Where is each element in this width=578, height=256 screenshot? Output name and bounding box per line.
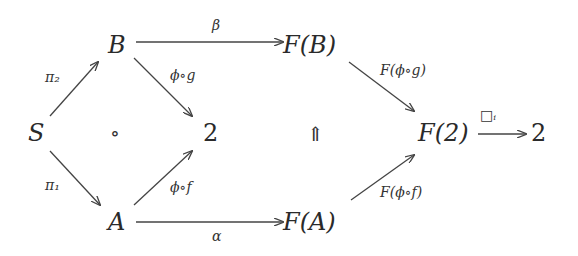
- label-box-i: □ᵢ: [480, 107, 496, 123]
- arrow-A-to-2: [134, 151, 192, 205]
- node-F-of-B: F(B): [282, 31, 336, 59]
- commutative-diagram: S B A 2 F(B) F(A) F(2) 2 ∘ ⇑ π₂ π₁ ϕ∘g ϕ…: [0, 0, 578, 256]
- label-phi-f: ϕ∘f: [170, 179, 194, 195]
- node-F-of-A: F(A): [282, 208, 336, 236]
- label-F-phi-f: F(ϕ∘f): [379, 184, 422, 200]
- label-F-phi-g: F(ϕ∘g): [379, 62, 426, 78]
- node-two-middle: 2: [203, 119, 218, 147]
- node-B: B: [107, 31, 126, 59]
- composition-symbol: ∘: [110, 121, 120, 145]
- label-pi1: π₁: [44, 177, 60, 193]
- double-up-arrow-symbol: ⇑: [307, 122, 324, 146]
- node-A: A: [106, 208, 125, 236]
- label-phi-g: ϕ∘g: [170, 67, 195, 83]
- node-F-of-2: F(2): [417, 119, 469, 147]
- label-pi2: π₂: [44, 69, 60, 85]
- label-beta: β: [211, 17, 220, 33]
- node-S: S: [28, 119, 44, 147]
- node-two-right: 2: [531, 119, 546, 147]
- label-alpha: α: [212, 228, 222, 244]
